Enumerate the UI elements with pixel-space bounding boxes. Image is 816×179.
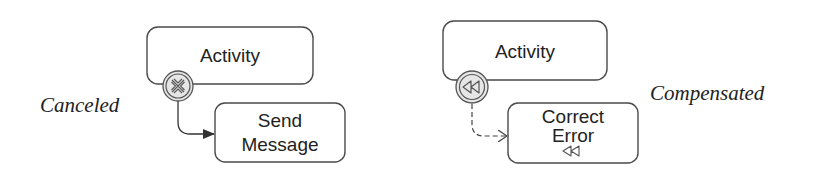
canceled-group: Canceled Activity Send Message — [40, 27, 345, 162]
send-message-line1: Send — [258, 110, 302, 131]
send-message-box[interactable]: Send Message — [215, 103, 345, 162]
activity-label-left: Activity — [200, 45, 261, 66]
send-message-line2: Message — [241, 134, 318, 155]
correct-error-box[interactable]: Correct Error — [508, 103, 638, 163]
activity-label-right: Activity — [495, 41, 556, 62]
compensation-event-icon[interactable] — [456, 71, 488, 103]
compensated-caption: Compensated — [650, 81, 765, 105]
sequence-flow-arrow — [178, 101, 214, 134]
correct-error-line2: Error — [552, 125, 595, 146]
compensated-group: Activity Correct Error Compensated — [443, 21, 765, 163]
bpmn-diagram: Canceled Activity Send Message Activity — [0, 0, 816, 179]
cancel-event-icon[interactable] — [163, 71, 193, 101]
association-dashed-arrow — [472, 104, 507, 136]
canceled-caption: Canceled — [40, 93, 120, 117]
correct-error-line1: Correct — [542, 106, 605, 127]
